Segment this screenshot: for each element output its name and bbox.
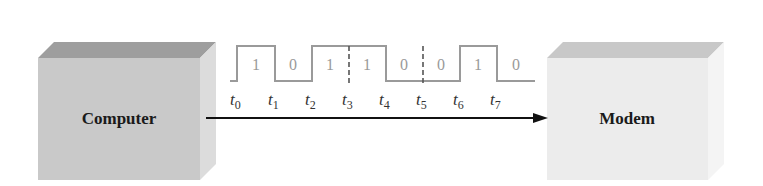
modem-label: Modem (599, 109, 655, 128)
time-label-t2: t2 (305, 90, 316, 112)
computer-box-side (200, 42, 216, 180)
computer-box: Computer (38, 42, 216, 180)
bit-label: 0 (400, 56, 408, 73)
bit-label: 1 (474, 56, 482, 73)
time-labels: t0 t1 t2 t3 t4 t5 t6 t7 (230, 90, 501, 112)
modem-box-top (547, 42, 724, 58)
bit-label: 1 (326, 56, 334, 73)
time-label-t1: t1 (268, 90, 279, 112)
data-flow-arrow (206, 113, 548, 123)
computer-label: Computer (82, 109, 157, 128)
time-label-t5: t5 (416, 90, 427, 112)
time-label-t4: t4 (379, 90, 390, 112)
time-label-t6: t6 (453, 90, 464, 112)
computer-box-top (38, 42, 216, 58)
time-label-t0: t0 (230, 90, 241, 112)
bit-label: 0 (289, 56, 297, 73)
bit-label: 1 (252, 56, 260, 73)
bit-label: 1 (363, 56, 371, 73)
bit-label: 0 (512, 56, 520, 73)
bit-label: 0 (437, 56, 445, 73)
digital-waveform: 1 0 1 1 0 0 1 0 (230, 46, 535, 84)
diagram-canvas: Computer Modem 1 0 1 1 0 0 1 0 t0 t1 t2 … (0, 0, 763, 186)
modem-box-side (708, 42, 724, 180)
arrowhead-icon (533, 113, 548, 123)
time-label-t7: t7 (490, 90, 501, 112)
time-label-t3: t3 (342, 90, 353, 112)
modem-box: Modem (547, 42, 724, 180)
